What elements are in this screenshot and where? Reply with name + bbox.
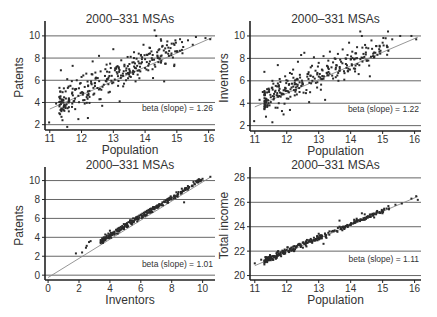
panel-patents-vs-inventors: 2000–331 MSAs02468100246810InventorsPate… [12,158,215,307]
data-point [60,103,62,105]
data-point [376,54,378,56]
data-point [294,79,296,81]
data-point [270,256,272,258]
data-point [263,108,265,110]
data-point [182,46,184,48]
data-point [138,77,140,79]
data-point [304,243,306,245]
data-point [100,89,102,91]
panel-patents-vs-population: 2000–331 MSAs246810111213141516Populatio… [12,12,215,157]
data-point [138,62,140,64]
data-point [94,72,96,74]
data-point [343,70,345,72]
data-point [306,76,308,78]
data-point [87,117,89,119]
data-point [71,103,73,105]
data-point [204,37,206,39]
data-point [279,81,281,83]
y-tick-label: 20 [234,270,246,281]
data-point [346,64,348,66]
data-point [342,226,344,228]
data-point [209,38,211,40]
data-point [349,69,351,71]
data-point [102,242,104,244]
data-point [334,58,336,60]
data-point [289,88,291,90]
data-point [164,47,166,49]
data-point [284,75,286,77]
data-point [391,38,393,40]
data-point [160,60,162,62]
data-point [87,85,89,87]
data-point [320,89,322,91]
data-point [268,256,270,258]
data-point [58,105,60,107]
scatter-points [48,29,211,128]
data-point [318,76,320,78]
data-point [316,87,318,89]
data-point [120,75,122,77]
y-tick-label: 8 [239,53,245,64]
data-point [117,232,119,234]
data-point [303,242,305,244]
data-point [170,52,172,54]
data-point [63,110,65,112]
data-point [123,65,125,67]
data-point [263,71,265,73]
data-point [373,213,375,215]
data-point [271,121,273,123]
data-point [97,77,99,79]
data-point [94,82,96,84]
data-point [308,101,310,103]
data-point [340,227,342,229]
data-point [272,83,274,85]
data-point [61,109,63,111]
data-point [352,223,354,225]
data-point [151,208,153,210]
data-point [381,212,383,214]
data-point [268,102,270,104]
data-point [298,87,300,89]
data-point [181,49,183,51]
data-point [321,234,323,236]
data-point [148,209,150,211]
data-point [133,57,135,59]
data-point [348,42,350,44]
y-tick-label: 0 [34,270,40,281]
data-point [266,106,268,108]
data-point [290,249,292,251]
data-point [141,61,143,63]
data-point [269,94,271,96]
data-point [386,54,388,56]
data-point [379,45,381,47]
data-point [48,121,50,123]
data-point [163,50,165,52]
data-point [77,118,79,120]
data-point [371,48,373,50]
data-point [271,80,273,82]
data-point [305,92,307,94]
data-point [69,85,71,87]
data-point [327,67,329,69]
data-point [289,109,291,111]
data-point [118,66,120,68]
data-point [383,208,385,210]
data-point [59,91,61,93]
data-point [273,93,275,95]
data-point [85,247,87,249]
data-point [71,106,73,108]
data-point [275,107,277,109]
data-point [84,86,86,88]
data-point [374,52,376,54]
data-point [410,35,412,37]
data-point [168,50,170,52]
data-point [110,67,112,69]
x-tick-label: 16 [409,283,421,294]
y-axis-label: Inventors [217,53,231,102]
data-point [155,35,157,37]
data-point [117,85,119,87]
data-point [112,48,114,50]
data-point [166,202,168,204]
data-point [114,67,116,69]
y-tick-label: 22 [234,246,246,257]
